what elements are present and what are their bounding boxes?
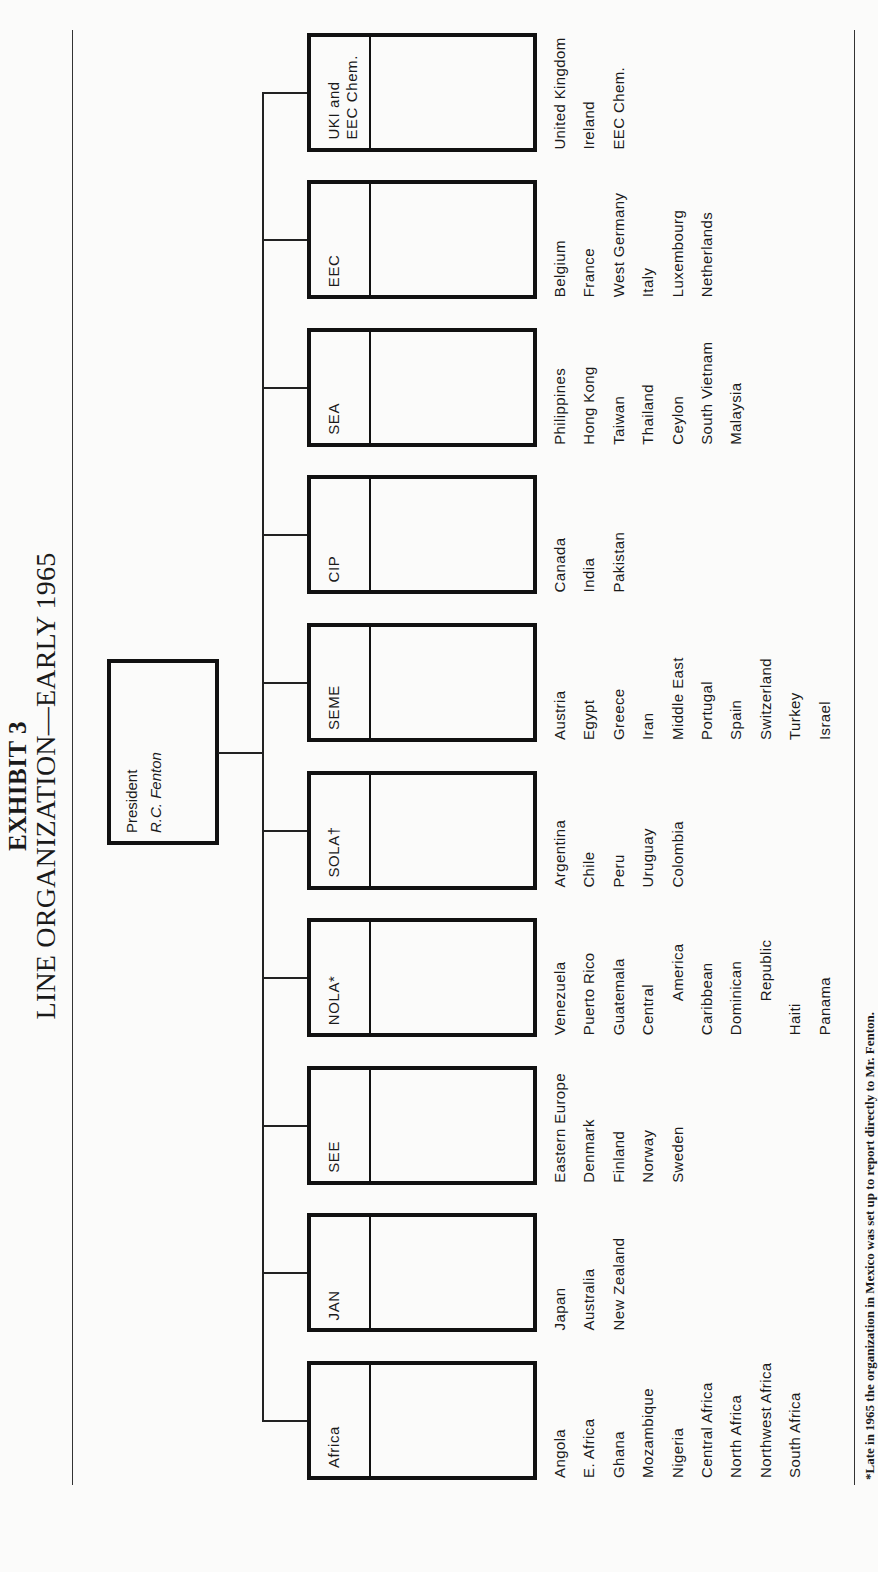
country-item: Denmark [574, 1073, 603, 1183]
country-item: Austria [545, 657, 574, 740]
exhibit-label: EXHIBIT 3 [4, 0, 32, 1572]
president-role: President [123, 770, 140, 833]
country-item: Argentina [545, 820, 574, 888]
country-item: Nigeria [663, 1362, 692, 1478]
country-item: E. Africa [574, 1362, 603, 1478]
country-item: Panama [810, 940, 839, 1036]
unit-header: SEE [311, 1070, 371, 1181]
country-item: United Kingdom [545, 37, 574, 149]
country-item: Netherlands [692, 193, 721, 298]
country-item: Malaysia [721, 341, 750, 444]
unit-connector [262, 534, 307, 536]
unit-header: CIP [311, 479, 371, 590]
country-list: PhilippinesHong KongTaiwanThailandCeylon… [545, 341, 751, 444]
country-item: West Germany [604, 193, 633, 298]
unit-box: SEE [307, 1066, 537, 1185]
unit-box: JAN [307, 1213, 537, 1332]
country-item: South Vietnam [692, 341, 721, 444]
country-list: AngolaE. AfricaGhanaMozambiqueNigeriaCen… [545, 1362, 810, 1478]
country-item: Belgium [545, 193, 574, 298]
country-item: Ghana [604, 1362, 633, 1478]
country-item: Portugal [692, 657, 721, 740]
unit-header: SOLA† [311, 775, 371, 886]
unit-connector [262, 682, 307, 684]
country-item: Haiti [780, 940, 809, 1036]
unit-box: CIP [307, 475, 537, 594]
unit-label: SEA [325, 403, 343, 435]
country-list: Eastern EuropeDenmarkFinlandNorwaySweden [545, 1073, 692, 1183]
unit-label: SEME [325, 685, 343, 730]
country-item: Sweden [663, 1073, 692, 1183]
unit-header: NOLA* [311, 922, 371, 1033]
unit-connector [262, 1125, 307, 1127]
unit-header: EEC [311, 184, 371, 295]
country-item: Central Africa [692, 1362, 721, 1478]
unit-label: SOLA† [325, 826, 343, 877]
country-item: Australia [574, 1238, 603, 1331]
trunk-line [262, 93, 264, 1420]
unit-header: UKI andEEC Chem. [311, 37, 371, 148]
country-item: Philippines [545, 341, 574, 444]
country-item: Caribbean [692, 940, 721, 1036]
unit-connector [262, 387, 307, 389]
country-item: France [574, 193, 603, 298]
country-item: Eastern Europe [545, 1073, 574, 1183]
president-box: President R.C. Fenton [107, 659, 219, 845]
country-item: Egypt [574, 657, 603, 740]
country-item: Ceylon [663, 341, 692, 444]
country-item: Turkey [780, 657, 809, 740]
country-item: Venezuela [545, 940, 574, 1036]
country-item: Luxembourg [663, 193, 692, 298]
unit-box: NOLA* [307, 918, 537, 1037]
unit-header: SEA [311, 332, 371, 443]
country-item: Hong Kong [574, 341, 603, 444]
country-item: Spain [721, 657, 750, 740]
unit-box: SEA [307, 328, 537, 447]
country-item: Middle East [663, 657, 692, 740]
country-item: Puerto Rico [574, 940, 603, 1036]
footnote: *Late in 1965 the organization in Mexico… [862, 1012, 878, 1480]
country-item: Angola [545, 1362, 574, 1478]
unit-connector [262, 977, 307, 979]
country-item: Northwest Africa [751, 1362, 780, 1478]
country-item: Chile [574, 820, 603, 888]
country-item: India [574, 532, 603, 593]
country-list: AustriaEgyptGreeceIranMiddle EastPortuga… [545, 657, 839, 740]
country-item: Norway [633, 1073, 662, 1183]
country-item: Peru [604, 820, 633, 888]
president-name: R.C. Fenton [147, 752, 164, 833]
country-item: Finland [604, 1073, 633, 1183]
country-item: Thailand [633, 341, 662, 444]
unit-connector [262, 830, 307, 832]
unit-connector [262, 1420, 307, 1422]
country-item: Iran [633, 657, 662, 740]
unit-label: UKI andEEC Chem. [325, 55, 361, 140]
unit-connector [262, 239, 307, 241]
country-item: South Africa [780, 1362, 809, 1478]
country-item: America [663, 940, 692, 1036]
country-item: Switzerland [751, 657, 780, 740]
unit-header: SEME [311, 627, 371, 738]
country-item: Japan [545, 1238, 574, 1331]
country-item: Israel [810, 657, 839, 740]
country-item: Canada [545, 532, 574, 593]
unit-box: SEME [307, 623, 537, 742]
unit-connector [262, 92, 307, 94]
unit-box: UKI andEEC Chem. [307, 33, 537, 152]
country-item: Taiwan [604, 341, 633, 444]
country-list: United KingdomIrelandEEC Chem. [545, 37, 633, 149]
country-list: JapanAustraliaNew Zealand [545, 1238, 633, 1331]
country-item: Pakistan [604, 532, 633, 593]
unit-label: JAN [325, 1290, 343, 1320]
unit-header: Africa [311, 1365, 371, 1476]
country-list: VenezuelaPuerto RicoGuatemalaCentralAmer… [545, 940, 839, 1036]
president-connector [218, 752, 262, 754]
country-item: Ireland [574, 37, 603, 149]
unit-box: SOLA† [307, 771, 537, 890]
unit-box: Africa [307, 1361, 537, 1480]
unit-connector [262, 1272, 307, 1274]
country-list: CanadaIndiaPakistan [545, 532, 633, 593]
country-item: New Zealand [604, 1238, 633, 1331]
country-list: BelgiumFranceWest GermanyItalyLuxembourg… [545, 193, 721, 298]
